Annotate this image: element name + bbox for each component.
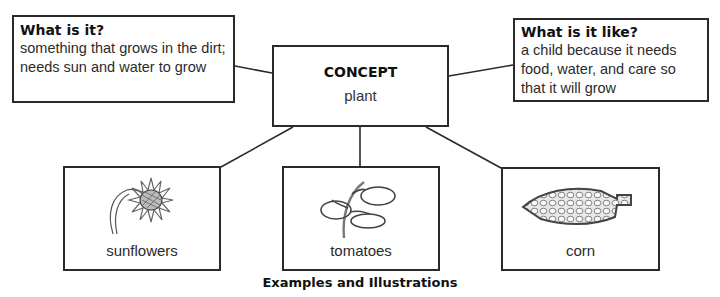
example-tomatoes: tomatoes bbox=[282, 166, 440, 271]
what-is-it-box: What is it? something that grows in the … bbox=[12, 15, 235, 103]
what-is-it-like-box: What is it like? a child because it need… bbox=[513, 18, 709, 102]
example-corn: corn bbox=[501, 167, 660, 271]
what-is-it-text: something that grows in the dirt; needs … bbox=[20, 39, 227, 77]
concept-word: plant bbox=[274, 87, 447, 104]
examples-caption: Examples and Illustrations bbox=[0, 275, 720, 290]
what-is-it-like-text: a child because it needs food, water, an… bbox=[521, 41, 701, 98]
tomato-plant-icon bbox=[318, 176, 408, 240]
example-sunflowers: sunflowers bbox=[63, 166, 221, 271]
what-is-it-title: What is it? bbox=[20, 21, 227, 39]
sunflower-icon bbox=[105, 174, 185, 238]
concept-title: CONCEPT bbox=[274, 64, 447, 80]
corn-cob-icon bbox=[521, 183, 641, 233]
what-is-it-like-title: What is it like? bbox=[521, 23, 701, 41]
example-label: sunflowers bbox=[65, 242, 219, 259]
example-label: corn bbox=[503, 242, 658, 259]
concept-box: CONCEPT plant bbox=[272, 45, 449, 127]
example-label: tomatoes bbox=[284, 242, 438, 259]
